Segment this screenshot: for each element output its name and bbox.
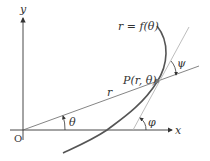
theta-label: θ bbox=[69, 116, 76, 129]
psi-arc bbox=[171, 61, 176, 75]
polar-curve bbox=[63, 26, 166, 153]
point-label: P(r, θ) bbox=[122, 74, 157, 87]
phi-label: φ bbox=[148, 116, 156, 129]
origin-label: O bbox=[14, 133, 22, 144]
radius-label: r bbox=[107, 86, 113, 99]
theta-arc bbox=[63, 116, 65, 130]
phi-arc bbox=[140, 118, 146, 130]
y-axis-label: y bbox=[19, 3, 27, 16]
polar-tangent-diagram: y x O r = f(θ) P(r, θ) r θ ψ φ bbox=[0, 0, 210, 161]
x-axis-label: x bbox=[175, 124, 182, 137]
psi-label: ψ bbox=[177, 57, 186, 70]
curve-label: r = f(θ) bbox=[118, 20, 159, 33]
